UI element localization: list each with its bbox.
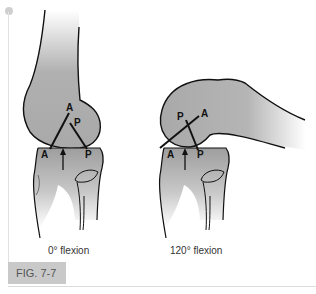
tibia-posterior-label: P [197,149,204,160]
caption-0-flexion: 0° flexion [48,245,89,256]
tibia-posterior-label: P [85,149,92,160]
femur-posterior-label: P [74,117,81,128]
femur-anterior-label: A [201,108,208,119]
tibia-left [33,148,103,228]
tibia-anterior-label: A [167,149,174,160]
femur-anterior-label: A [66,102,73,113]
femur-posterior-label: P [177,111,184,122]
figure-label: FIG. 7-7 [8,262,66,284]
caption-120-flexion: 120° flexion [170,245,222,256]
tibia-anterior-label: A [41,149,48,160]
panel-120-flexion: P A A P [159,79,306,238]
panel-0-flexion: A P A P [23,10,103,238]
tibia-right [159,148,229,228]
bottom-rule [8,286,316,287]
